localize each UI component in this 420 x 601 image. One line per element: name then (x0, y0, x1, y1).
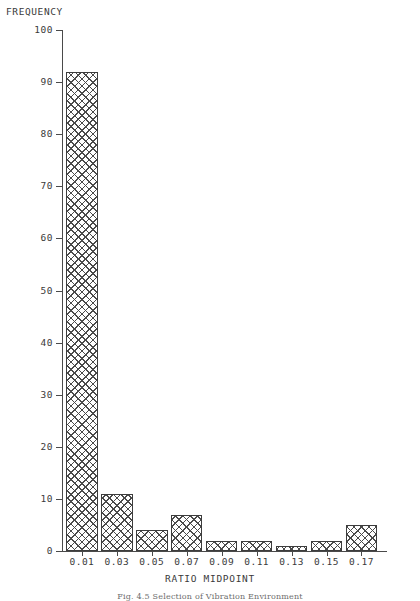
y-tick-label: 80 (10, 128, 53, 139)
histogram-bar (206, 541, 237, 551)
y-tick-label: 50 (10, 285, 53, 296)
histogram-bar (241, 541, 272, 551)
x-tick-label: 0.01 (64, 556, 100, 567)
x-tick-label: 0.15 (309, 556, 345, 567)
y-tick-label: 20 (10, 441, 53, 452)
histogram-bar (136, 530, 167, 551)
x-axis-title: RATIO MIDPOINT (0, 573, 420, 584)
x-axis-line (62, 551, 387, 552)
x-tick-label: 0.11 (239, 556, 275, 567)
figure-caption: Fig. 4.5 Selection of Vibration Environm… (0, 592, 420, 601)
histogram-bar (311, 541, 342, 551)
histogram-bar (101, 494, 132, 551)
y-tick-label: 100 (10, 24, 53, 35)
x-tick-label: 0.09 (204, 556, 240, 567)
y-tick-label: 40 (10, 337, 53, 348)
y-tick-label: 30 (10, 389, 53, 400)
y-tick-label: 60 (10, 232, 53, 243)
y-tick-label: 70 (10, 180, 53, 191)
y-tick-label: 90 (10, 76, 53, 87)
x-tick-label: 0.07 (169, 556, 205, 567)
y-tick-label: 0 (10, 545, 53, 556)
histogram-bar (171, 515, 202, 551)
x-tick-label: 0.13 (274, 556, 310, 567)
histogram-bar (346, 525, 377, 551)
y-tick-mark (56, 551, 62, 552)
x-tick-label: 0.17 (343, 556, 379, 567)
x-tick-label: 0.05 (134, 556, 170, 567)
y-tick-label: 10 (10, 493, 53, 504)
x-tick-label: 0.03 (99, 556, 135, 567)
y-axis-title: FREQUENCY (6, 6, 63, 17)
plot-area (62, 30, 387, 551)
histogram-bar (66, 72, 97, 551)
